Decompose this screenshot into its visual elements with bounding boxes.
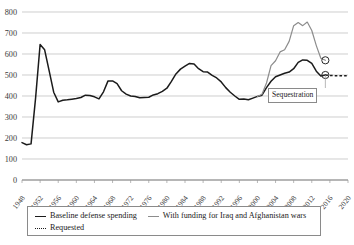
x-axis-tick-label: 1948	[11, 193, 27, 210]
legend-swatch-baseline-line-icon	[35, 216, 46, 217]
y-axis-tick-label: 400	[5, 92, 17, 101]
chart-legend: Baseline defense spending With funding f…	[27, 206, 321, 236]
y-axis-tick-label: 200	[5, 134, 17, 143]
legend-row-primary: Baseline defense spending With funding f…	[35, 210, 314, 222]
y-axis-tick-label: 0	[13, 176, 17, 185]
y-axis-tick-label: 700	[5, 29, 17, 38]
legend-label-baseline: Baseline defense spending	[50, 211, 137, 221]
legend-swatch-requested-dotted-icon	[35, 228, 46, 229]
legend-swatch-war-line-icon	[148, 216, 159, 217]
legend-row-secondary: Requested	[35, 222, 314, 234]
y-axis-tick-label: 500	[5, 71, 17, 80]
legend-item-requested: Requested	[35, 223, 84, 233]
sequestration-annotation: Sequestration	[268, 88, 317, 103]
legend-item-baseline: Baseline defense spending	[35, 211, 137, 221]
legend-label-war-funding: With funding for Iraq and Afghanistan wa…	[163, 211, 306, 221]
defense-spending-chart: 0100200300400500600700800194819521956196…	[0, 0, 354, 245]
y-axis-tick-label: 800	[5, 8, 17, 17]
x-axis-tick-label: 2020	[337, 193, 353, 210]
y-axis-tick-label: 100	[5, 155, 17, 164]
y-axis-tick-label: 300	[5, 113, 17, 122]
legend-label-requested: Requested	[50, 223, 84, 233]
legend-item-war-funding: With funding for Iraq and Afghanistan wa…	[148, 211, 306, 221]
y-axis-tick-label: 600	[5, 50, 17, 59]
sequestration-annotation-label: Sequestration	[272, 90, 313, 99]
